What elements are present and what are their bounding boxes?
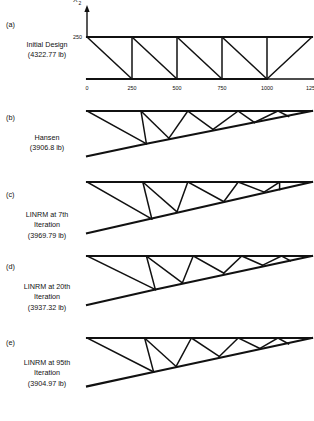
panel-caption-d: (d)LINRM at 20thIteration(3937.32 lb) (6, 262, 88, 313)
x-tick-label: 0 (86, 85, 89, 91)
panel-label-line: (3904.97 lb) (6, 379, 88, 390)
x-tick-label: 500 (173, 85, 182, 91)
truss-web-member (87, 338, 154, 372)
truss-bottom-chord (87, 256, 312, 305)
panel-label-line: Iteration (6, 368, 88, 379)
truss-web-member (177, 37, 222, 79)
truss-web-member (87, 111, 146, 144)
truss-web-member (191, 338, 219, 356)
panel-label-line: LINRM at 7th (6, 210, 88, 221)
truss-web-member (87, 37, 132, 79)
truss-web-member (238, 338, 260, 348)
panel-label: LINRM at 95thIteration(3904.97 lb) (6, 358, 88, 390)
y-axis-label: X (73, 0, 78, 3)
panel-label: LINRM at 7thIteration(3969.79 lb) (6, 210, 88, 242)
truss-diagram-a: 025050075010001250250X2X1 (60, 6, 314, 101)
panel-label-line: (3906.8 lb) (6, 143, 88, 154)
panel-label-line: Initial Design (6, 40, 88, 51)
panel-tag: (b) (6, 113, 88, 124)
truss-diagram-e (60, 322, 314, 402)
truss-web-member (87, 256, 155, 290)
truss-web-member (267, 37, 312, 79)
truss-web-member (238, 111, 254, 122)
truss-bottom-chord (87, 338, 312, 386)
truss-bottom-chord (87, 182, 312, 233)
x-tick-label: 1250 (306, 85, 314, 91)
panel-caption-e: (e)LINRM at 95thIteration(3904.97 lb) (6, 338, 88, 389)
truss-bottom-chord (87, 111, 312, 156)
truss-web-member (193, 256, 224, 273)
truss-web-member (222, 37, 267, 79)
truss-web-member (169, 111, 188, 138)
truss-diagram-b (60, 103, 314, 175)
panel-tag: (e) (6, 338, 88, 349)
truss-web-member (143, 182, 177, 212)
panel-label-line: LINRM at 20th (6, 282, 88, 293)
truss-web-member (132, 37, 177, 79)
truss-web-member (177, 182, 188, 212)
truss-web-member (143, 182, 152, 219)
truss-web-member (242, 256, 263, 265)
truss-diagram-c (60, 178, 314, 246)
panel-label-line: Hansen (6, 133, 88, 144)
truss-web-member (188, 182, 224, 202)
panel-label-line: LINRM at 95th (6, 358, 88, 369)
panel-caption-a: (a)Initial Design(4322.77 lb) (6, 20, 88, 61)
truss-web-member (188, 111, 213, 129)
panel-label: Hansen(3906.8 lb) (6, 133, 88, 154)
panel-label: Initial Design(4322.77 lb) (6, 40, 88, 61)
x-tick-label: 1000 (261, 85, 273, 91)
panel-label-line: (3937.32 lb) (6, 303, 88, 314)
truss-diagram-d (60, 248, 314, 320)
panel-label-line: (4322.77 lb) (6, 50, 88, 61)
panel-label-line: (3969.79 lb) (6, 231, 88, 242)
x-tick-label: 750 (218, 85, 227, 91)
truss-web-member (145, 338, 177, 367)
panel-caption-b: (b)Hansen(3906.8 lb) (6, 113, 88, 154)
panel-tag: (d) (6, 262, 88, 273)
panel-tag: (a) (6, 20, 88, 31)
truss-web-member (182, 256, 193, 283)
truss-web-member (176, 338, 191, 367)
panel-tag: (c) (6, 190, 88, 201)
truss-figure: 025050075010001250250X2X1(a)Initial Desi… (0, 0, 314, 421)
truss-web-member (87, 182, 152, 219)
panel-label-line: Iteration (6, 292, 88, 303)
truss-web-member (224, 256, 242, 273)
panel-caption-c: (c)LINRM at 7thIteration(3969.79 lb) (6, 190, 88, 241)
panel-label-line: Iteration (6, 220, 88, 231)
x-tick-label: 250 (128, 85, 137, 91)
panel-label: LINRM at 20thIteration(3937.32 lb) (6, 282, 88, 314)
y-axis-label-subscript: 2 (79, 0, 82, 6)
truss-web-member (238, 182, 264, 192)
